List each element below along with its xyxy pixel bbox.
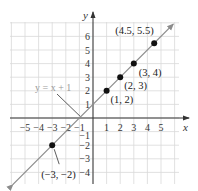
y-axis-label: y xyxy=(82,9,88,21)
x-tick-label: −5 xyxy=(20,122,31,133)
y-tick-label: −2 xyxy=(79,140,90,151)
data-point xyxy=(49,142,55,148)
point-label: (2, 3) xyxy=(124,80,147,92)
chart-svg: xy −5−4−3−2−112345654321−1−2−3−4 y = x +… xyxy=(0,0,198,191)
x-tick-label: 1 xyxy=(104,122,109,133)
y-tick-label: 2 xyxy=(85,85,90,96)
equation-callout-line xyxy=(57,94,80,116)
equation-label: y = x + 1 xyxy=(35,82,71,93)
x-tick-label: 3 xyxy=(131,122,136,133)
annotations: y = x + 1 xyxy=(35,82,80,116)
y-tick-label: −4 xyxy=(79,167,90,178)
y-tick-label: 3 xyxy=(85,72,90,83)
y-tick-label: 6 xyxy=(85,31,90,42)
x-tick-label: 2 xyxy=(118,122,123,133)
data-points: (4.5, 5.5)(3, 4)(2, 3)(1, 2)(−3, −2) xyxy=(41,25,162,181)
data-point xyxy=(117,74,123,80)
x-tick-label: 5 xyxy=(159,122,164,133)
data-point xyxy=(131,61,137,67)
point-label: (−3, −2) xyxy=(41,169,76,181)
x-axis-label: x xyxy=(182,121,188,133)
y-tick-label: 5 xyxy=(85,45,90,56)
data-point xyxy=(151,40,157,46)
point-label: (1, 2) xyxy=(111,94,134,106)
x-tick-label: −3 xyxy=(47,122,58,133)
point-label: (4.5, 5.5) xyxy=(115,25,154,37)
point-label: (3, 4) xyxy=(139,67,162,79)
y-tick-label: 4 xyxy=(85,58,90,69)
y-tick-label: −3 xyxy=(79,153,90,164)
data-point xyxy=(104,88,110,94)
point-callout-line xyxy=(54,149,59,164)
x-tick-label: 4 xyxy=(145,122,150,133)
x-tick-label: −4 xyxy=(33,122,44,133)
